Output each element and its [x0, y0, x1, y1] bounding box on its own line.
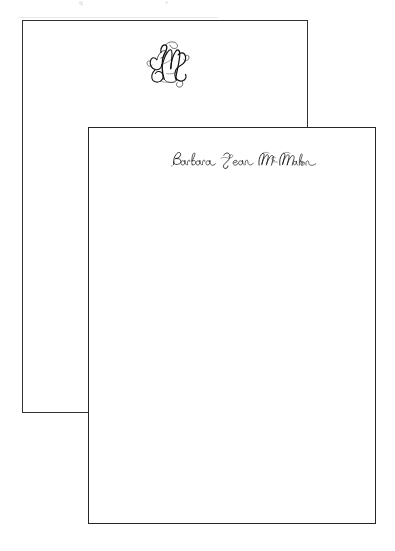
scan-speck-icon: [165, 1, 168, 4]
name-imprint: [156, 149, 316, 169]
scan-speck-icon: [81, 4, 83, 6]
image-canvas: [0, 0, 395, 551]
scan-hairline: [18, 17, 218, 18]
monogram-imprint: [143, 33, 192, 93]
name-note-card[interactable]: [88, 127, 376, 524]
monogram-script-icon: [143, 33, 192, 93]
name-script-icon: [156, 149, 316, 169]
